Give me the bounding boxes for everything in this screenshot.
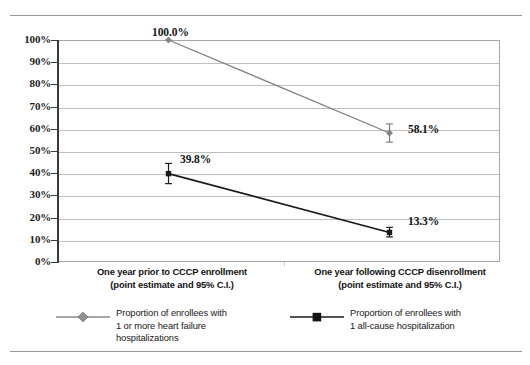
data-point-marker: [166, 171, 171, 176]
series-line: [169, 40, 390, 133]
data-label-allcause-post: 13.3%: [408, 215, 439, 227]
legend-marker-diamond-icon: [54, 311, 112, 323]
legend-item-heart-failure[interactable]: Proportion of enrollees with1 or more he…: [54, 308, 274, 352]
data-point-marker: [387, 230, 392, 235]
text-line: (point estimate and 95% C.I.): [110, 279, 233, 290]
data-label-hf-post: 58.1%: [408, 123, 439, 135]
text-line: One year following CCCP disenrollment: [314, 266, 485, 277]
data-point-marker: [386, 130, 392, 136]
text-line: One year prior to CCCP enrollment: [97, 266, 247, 277]
series-line: [169, 174, 390, 233]
text-line: 1 or more heart failure: [116, 320, 206, 331]
legend-marker-square-icon: [288, 311, 346, 323]
data-label-allcause-prior: 39.8%: [180, 153, 211, 165]
text-line: Proportion of enrollees with: [350, 307, 461, 318]
figure: 100%90%80%70%60%50%40%30%20%10%0% 100.0%…: [0, 0, 530, 365]
legend-item-all-cause[interactable]: Proportion of enrollees with1 all-cause …: [288, 308, 516, 352]
text-line: 1 all-cause hospitalization: [350, 320, 455, 331]
legend-label-heart-failure: Proportion of enrollees with1 or more he…: [116, 307, 227, 345]
text-line: hospitalizations: [116, 332, 179, 343]
legend-label-all-cause: Proportion of enrollees with1 all-cause …: [350, 307, 461, 332]
text-line: Proportion of enrollees with: [116, 307, 227, 318]
x-category-label-0: One year prior to CCCP enrollment(point …: [60, 266, 284, 291]
data-label-hf-prior: 100.0%: [152, 26, 189, 38]
x-category-label-1: One year following CCCP disenrollment(po…: [288, 266, 512, 291]
text-line: (point estimate and 95% C.I.): [338, 279, 461, 290]
